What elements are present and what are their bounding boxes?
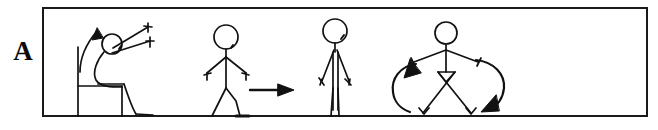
figure-panel: A — [0, 0, 658, 130]
panel-label: A — [8, 38, 38, 65]
panel-frame-rect — [43, 8, 647, 116]
panel-frame-border — [42, 7, 648, 117]
